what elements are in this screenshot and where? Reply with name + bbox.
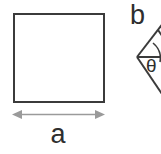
- dimension-arrow-a: [12, 110, 105, 119]
- geometry-figure: a b θ: [0, 0, 161, 154]
- dimension-arrowhead-left: [12, 110, 22, 119]
- dimension-arrowhead-right: [95, 110, 105, 119]
- rhombus-edge-top: [158, 30, 161, 47]
- label-side-b: b: [130, 2, 145, 29]
- label-side-a: a: [0, 121, 116, 148]
- square-shape: [14, 14, 104, 102]
- label-angle-theta: θ: [146, 56, 157, 75]
